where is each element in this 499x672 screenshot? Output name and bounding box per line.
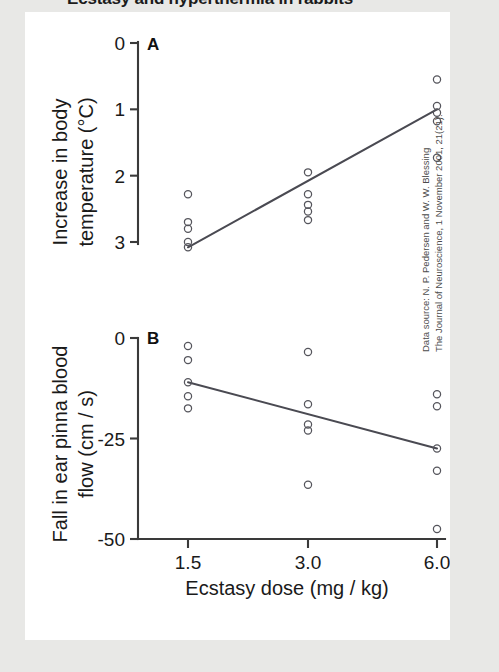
y-tick-label: -50	[98, 529, 125, 550]
data-point	[304, 481, 311, 488]
panel-a-ticks: 3210	[114, 33, 138, 253]
x-tick-label: 1.5	[175, 552, 201, 573]
data-point	[304, 217, 311, 224]
y-tick-label: 0	[114, 33, 125, 54]
y-tick-label: 2	[114, 166, 125, 187]
source-credit-line1: Data source: N. P. Pedersen and W. W. Bl…	[419, 72, 432, 352]
data-point	[433, 391, 440, 398]
data-point	[184, 342, 191, 349]
panel-a-y-label-line1: Increase in body	[49, 99, 71, 246]
data-point	[433, 467, 440, 474]
panel-a-fit-line	[188, 109, 437, 247]
panel-b-y-label-line1: Fall in ear pinna blood	[49, 346, 71, 543]
x-tick-label: 6.0	[424, 552, 450, 573]
x-tick-label: 3.0	[295, 552, 321, 573]
panel-b-ticks: 0-25-50	[98, 328, 138, 550]
y-tick-label: -25	[98, 429, 125, 450]
data-point	[184, 405, 191, 412]
panel-b-points	[184, 342, 440, 532]
y-tick-label: 0	[114, 328, 125, 349]
panel-a: A 3210 Increase in body temperature (°C)	[49, 33, 441, 253]
data-point	[433, 403, 440, 410]
source-credit: Data source: N. P. Pedersen and W. W. Bl…	[419, 72, 459, 352]
panel-b-fit-line	[188, 382, 437, 448]
data-point	[184, 393, 191, 400]
figure-root: Ecstasy and hyperthermia in rabbits A 32…	[0, 0, 499, 672]
x-axis: 1.53.06.0 Ecstasy dose (mg / kg)	[138, 539, 450, 599]
data-point	[184, 357, 191, 364]
panel-a-points	[184, 76, 440, 251]
x-axis-ticks: 1.53.06.0	[175, 539, 450, 573]
data-point	[304, 169, 311, 176]
data-point	[184, 191, 191, 198]
data-point	[304, 401, 311, 408]
panel-b: B 0-25-50 Fall in ear pinna blood flow (…	[49, 328, 441, 550]
plot-card: A 3210 Increase in body temperature (°C)…	[25, 12, 450, 640]
y-tick-label: 1	[114, 99, 125, 120]
panel-a-letter: A	[147, 35, 159, 54]
data-point	[304, 191, 311, 198]
panel-b-y-label-line2: flow (cm / s)	[75, 390, 97, 498]
panel-a-y-axis-title: Increase in body temperature (°C)	[49, 97, 97, 246]
data-point	[433, 525, 440, 532]
panel-b-y-axis-title: Fall in ear pinna blood flow (cm / s)	[49, 346, 97, 543]
panel-b-letter: B	[147, 329, 159, 348]
source-credit-line2: The Journal of Neuroscience, 1 November …	[432, 72, 445, 352]
figure-title: Ecstasy and hyperthermia in rabbits	[0, 0, 420, 9]
data-point	[304, 348, 311, 355]
y-tick-label: 3	[114, 232, 125, 253]
panel-a-y-label-line2: temperature (°C)	[75, 97, 97, 246]
x-axis-title: Ecstasy dose (mg / kg)	[185, 577, 388, 599]
plot-svg: A 3210 Increase in body temperature (°C)…	[25, 12, 450, 640]
